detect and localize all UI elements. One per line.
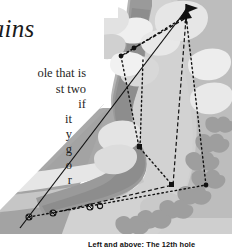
body-line: y [0,127,72,142]
body-line: it [0,112,72,127]
article-text-column: olains y ole that is st two if it y g o … [0,0,108,250]
landing-point [137,144,142,149]
page-title: olains y [0,16,112,68]
page-root: olains y ole that is st two if it y g o … [0,0,232,250]
figure-caption: Left and above: The 12th hole [88,240,195,249]
body-line: r [0,173,72,188]
landing-point [204,183,209,188]
landing-point [169,182,174,187]
body-line: if [0,97,86,113]
landing-point [119,54,124,59]
page-title-line1: olains [0,15,34,42]
page-title-line2: y [0,42,112,68]
body-line: ole that is [0,66,86,82]
body-line: st two [0,82,86,98]
body-paragraph-clipped: it y g o r [0,112,72,188]
body-paragraph: ole that is st two if [0,66,86,113]
landing-point [132,46,137,51]
body-line: g [0,142,72,157]
body-line: o [0,158,72,173]
